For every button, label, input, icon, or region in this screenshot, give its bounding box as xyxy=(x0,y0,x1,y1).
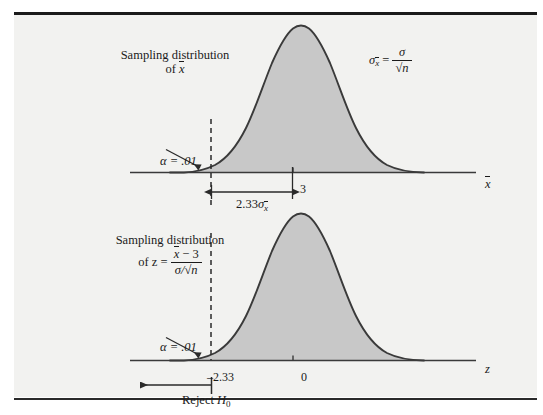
statistics-figure: Sampling distribution of x σx = σ √n α =… xyxy=(0,0,543,415)
z-numerator-xbar: x xyxy=(174,247,180,262)
upper-alpha-text: α = .01 xyxy=(160,154,197,168)
distribution-plot xyxy=(14,15,537,397)
sigma-numerator: σ xyxy=(392,45,411,61)
reject-h-subscript: 0 xyxy=(226,399,231,409)
reject-region-arrow xyxy=(140,377,212,394)
z-numerator-rest: − 3 xyxy=(179,247,199,261)
sigma-subscript-xbar: x xyxy=(375,58,379,68)
z-denominator: σ/√n xyxy=(171,263,202,279)
upper-title-xbar: x xyxy=(179,62,185,76)
sigma-fraction: σ √n xyxy=(392,45,411,76)
z-denominator-sigma: σ/ xyxy=(175,263,185,277)
lower-title-line2-prefix: of z = xyxy=(138,255,170,269)
lower-critical-tick-label: –2.33 xyxy=(207,371,234,384)
z-formula: x − 3 σ/√n xyxy=(171,247,202,278)
z-denominator-arg: n xyxy=(191,263,197,277)
sigma-denominator: √n xyxy=(392,61,411,77)
lower-title-z-prefix: of z = xyxy=(138,255,170,269)
lower-axis-label: z xyxy=(485,362,490,376)
reject-prefix: Reject xyxy=(182,393,217,407)
upper-title-line2-prefix: of xyxy=(165,62,179,76)
distance-coefficient: 2.33 xyxy=(236,197,258,211)
lower-alpha-text: α = .01 xyxy=(160,340,197,354)
lower-alpha-label: α = .01 xyxy=(160,340,197,354)
upper-distribution-title: Sampling distribution of x xyxy=(100,48,250,76)
sigma-distance-label: 2.33σx xyxy=(236,197,268,213)
figure-panel: Sampling distribution of x σx = σ √n α =… xyxy=(14,15,537,397)
upper-alpha-label: α = .01 xyxy=(160,154,197,168)
lower-title-line1: Sampling distribution xyxy=(116,233,225,247)
distance-sigma-subscript: x xyxy=(264,203,268,213)
sigma-equals: = xyxy=(382,53,389,67)
upper-mean-tick-label: 3 xyxy=(300,183,306,196)
reject-h-symbol: H xyxy=(217,393,226,407)
lower-mean-tick-label: 0 xyxy=(301,371,307,384)
sigma-denominator-arg: n xyxy=(402,61,408,75)
z-numerator: x − 3 xyxy=(171,247,202,263)
bottom-rule xyxy=(14,398,537,400)
lower-distribution-title: Sampling distribution of z = x − 3 σ/√n xyxy=(90,233,250,278)
sigma-xbar-formula: σx = σ √n xyxy=(369,45,412,76)
upper-title-line1: Sampling distribution xyxy=(121,48,230,62)
reject-null-label: Reject H0 xyxy=(182,393,231,409)
upper-axis-label: x xyxy=(485,177,491,191)
